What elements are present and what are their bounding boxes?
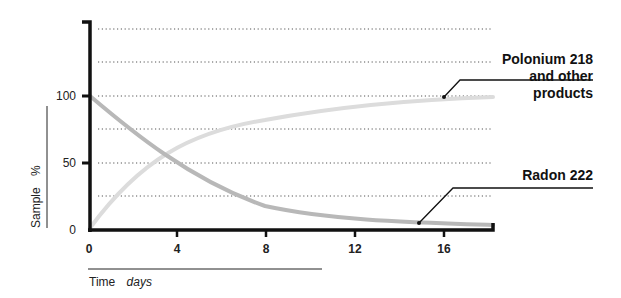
radon-marker	[417, 221, 421, 225]
y-unit-text: %	[29, 165, 43, 176]
radon-label: Radon 222	[522, 167, 593, 183]
y-axis-title: Sample %	[29, 165, 43, 228]
y-axis	[82, 22, 90, 232]
polonium-label-line1: Polonium 218	[502, 51, 593, 67]
x-axis-title: Time days	[89, 275, 152, 289]
gridlines	[98, 29, 493, 196]
radon-leader-line	[419, 188, 593, 223]
x-tick-0: 0	[86, 242, 93, 256]
polonium-label-line3: products	[533, 85, 593, 101]
x-tick-12: 12	[348, 242, 362, 256]
y-tick-100: 100	[56, 89, 76, 103]
y-tick-50: 50	[63, 156, 77, 170]
x-unit-text: days	[127, 275, 152, 289]
y-title-text: Sample	[29, 187, 43, 228]
polonium-marker	[442, 95, 446, 99]
x-tick-16: 16	[437, 242, 451, 256]
polonium-label-line2: and other	[529, 68, 593, 84]
polonium-annotation: Polonium 218 and other products	[442, 51, 594, 101]
radon-annotation: Radon 222	[417, 167, 593, 225]
x-tick-4: 4	[174, 242, 181, 256]
y-tick-0: 0	[69, 223, 76, 237]
decay-chart: 100 50 0 0 4 8 12 16 Time days Sample % …	[0, 0, 621, 298]
x-title-text: Time	[89, 275, 116, 289]
x-axis	[88, 223, 493, 237]
x-tick-8: 8	[263, 242, 270, 256]
